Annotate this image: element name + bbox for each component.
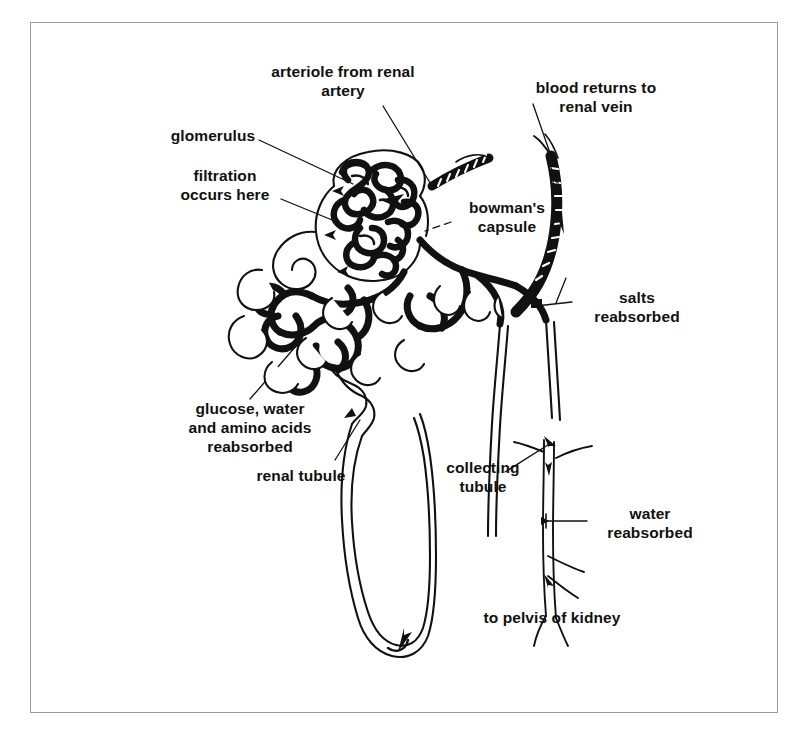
water-arrow — [541, 517, 549, 525]
figure-page: arteriole from renal artery glomerulus f… — [0, 0, 807, 733]
label-arteriole-from-renal-artery: arteriole from renal artery — [248, 62, 438, 100]
label-water-reabsorbed: water reabsorbed — [588, 504, 712, 542]
loop-flow-arrow — [388, 628, 412, 652]
label-to-pelvis-of-kidney: to pelvis of kidney — [462, 608, 642, 627]
leader-filtration — [281, 199, 337, 222]
afferent-arteriole — [432, 155, 489, 186]
distal-tubule — [488, 320, 560, 536]
label-salts-reabsorbed: salts reabsorbed — [575, 288, 699, 326]
label-filtration-occurs-here: filtration occurs here — [165, 166, 285, 204]
glomerulus — [334, 162, 419, 276]
nephron-diagram — [0, 0, 807, 733]
salts-marker — [531, 299, 542, 308]
loop-of-henle — [341, 414, 436, 657]
label-collecting-tubule: collecting tubule — [428, 458, 538, 496]
label-glomerulus: glomerulus — [140, 126, 286, 145]
label-bowmans-capsule: bowman's capsule — [452, 198, 562, 236]
label-renal-tubule: renal tubule — [239, 466, 363, 485]
leader-salts-tick — [556, 278, 566, 303]
label-blood-returns-to-renal-vein: blood returns to renal vein — [516, 78, 676, 116]
label-glucose-water-amino-acids-reabsorbed: glucose, water and amino acids reabsorbe… — [152, 399, 348, 456]
